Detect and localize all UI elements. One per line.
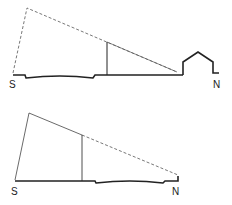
house-outline: [183, 52, 219, 75]
bottom-dashed-sun-line: [82, 135, 178, 175]
bottom-solid-outline: [15, 113, 82, 180]
bottom-diagram: [15, 113, 178, 183]
top-dashed-outline: [13, 8, 177, 73]
top-south-label: S: [9, 79, 16, 90]
top-north-label: N: [213, 79, 220, 90]
bottom-ground-profile: [15, 176, 178, 183]
bottom-north-label: N: [172, 186, 179, 197]
top-ground-profile: [13, 75, 183, 78]
bottom-south-label: S: [11, 186, 18, 197]
top-sun-line-solid: [107, 42, 177, 72]
top-diagram: [13, 8, 219, 78]
sun-angle-diagram: S N S N: [0, 0, 232, 205]
